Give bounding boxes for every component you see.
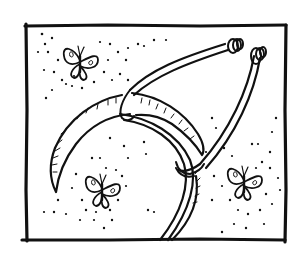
- butterfly-bottom-left: [86, 174, 120, 208]
- butterfly-top-left: [64, 46, 98, 80]
- rolled-tip-left: [228, 39, 243, 53]
- butterfly-right: [228, 166, 262, 200]
- instrument: [120, 39, 266, 240]
- crescent-blade: [51, 93, 204, 192]
- illustration-panel: [0, 0, 307, 257]
